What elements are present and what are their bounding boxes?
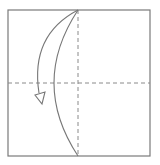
fold-arrow-shaft — [38, 10, 78, 93]
origami-diagram — [0, 0, 160, 165]
fold-arrow-head-icon — [35, 92, 45, 104]
